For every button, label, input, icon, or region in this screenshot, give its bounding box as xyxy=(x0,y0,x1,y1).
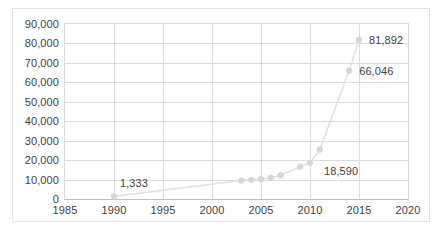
data-point-marker xyxy=(297,164,303,170)
data-point-marker xyxy=(356,37,362,43)
x-axis-tick-label: 2020 xyxy=(396,204,421,216)
y-axis-tick-label: 20,000 xyxy=(25,154,59,166)
x-axis-tick-label: 2000 xyxy=(200,204,225,216)
data-point-marker xyxy=(248,177,254,183)
y-axis-tick-label: 80,000 xyxy=(25,37,59,49)
y-axis-tick-label: 10,000 xyxy=(25,174,59,186)
data-point-marker xyxy=(258,176,264,182)
x-axis-tick-label: 1985 xyxy=(53,204,78,216)
data-point-marker xyxy=(307,160,313,166)
data-point-label: 81,892 xyxy=(369,34,403,46)
y-axis-tick-label: 60,000 xyxy=(25,76,59,88)
y-axis-tick-label: 50,000 xyxy=(25,96,59,108)
y-axis-tick-label: 70,000 xyxy=(25,57,59,69)
data-point-marker xyxy=(317,147,323,153)
data-point-label: 18,590 xyxy=(324,165,358,177)
chart-frame: 010,00020,00030,00040,00050,00060,00070,… xyxy=(12,8,430,222)
x-axis-tick-label: 2015 xyxy=(347,204,372,216)
series-line xyxy=(114,40,359,197)
data-point-marker xyxy=(111,193,117,199)
plot-area: 010,00020,00030,00040,00050,00060,00070,… xyxy=(64,23,409,200)
x-axis-tick-label: 1990 xyxy=(102,204,127,216)
y-axis-tick-label: 90,000 xyxy=(25,18,59,30)
data-point-label: 1,333 xyxy=(120,177,148,189)
data-point-marker xyxy=(238,177,244,183)
data-point-marker xyxy=(268,175,274,181)
data-point-marker xyxy=(346,67,352,73)
y-axis-tick-label: 30,000 xyxy=(25,135,59,147)
data-point-marker xyxy=(278,172,284,178)
x-axis-tick-label: 2005 xyxy=(249,204,274,216)
x-axis-tick-label: 1995 xyxy=(151,204,176,216)
y-axis-tick-label: 40,000 xyxy=(25,115,59,127)
x-axis-tick-label: 2010 xyxy=(298,204,323,216)
data-point-label: 66,046 xyxy=(359,65,393,77)
